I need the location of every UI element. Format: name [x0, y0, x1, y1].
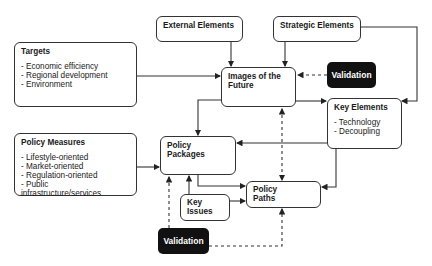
- list-item: - Decoupling: [334, 127, 395, 136]
- list-item: - Economic efficiency: [21, 62, 130, 71]
- list-item: - Public infrastructure/services: [21, 180, 130, 198]
- node-targets: Targets - Economic efficiency - Regional…: [14, 42, 137, 107]
- node-title: Validation: [163, 236, 203, 246]
- node-title: Strategic Elements: [280, 21, 354, 30]
- node-title: Images of the Future: [228, 72, 289, 90]
- node-images-of-the-future: Images of the Future: [221, 67, 296, 107]
- edge-packages-to-paths: [198, 175, 245, 186]
- node-title: Key Elements: [334, 103, 395, 112]
- node-title: Key Issues: [187, 198, 215, 216]
- edge-images-to-policy-packages: [198, 100, 221, 135]
- node-item-list: - Lifestyle-oriented - Market-oriented -…: [21, 153, 130, 198]
- node-title: Policy Measures: [21, 138, 130, 147]
- node-strategic-elements: Strategic Elements: [273, 16, 361, 42]
- node-policy-measures: Policy Measures - Lifestyle-oriented - M…: [14, 133, 137, 196]
- list-item: - Regional development: [21, 71, 130, 80]
- node-key-issues: Key Issues: [180, 194, 230, 221]
- list-item: - Market-oriented: [21, 162, 130, 171]
- node-external-elements: External Elements: [156, 16, 243, 42]
- node-title: Policy Packages: [167, 141, 207, 159]
- node-item-list: - Economic efficiency - Regional develop…: [21, 62, 130, 89]
- node-title: External Elements: [163, 21, 236, 30]
- node-validation-bottom: Validation: [158, 228, 209, 254]
- node-title: Validation: [331, 70, 371, 80]
- node-validation-top: Validation: [327, 62, 376, 88]
- node-item-list: - Technology - Decoupling: [334, 118, 395, 136]
- list-item: - Technology: [334, 118, 395, 127]
- node-policy-paths: Policy Paths: [246, 181, 321, 208]
- node-policy-packages: Policy Packages: [160, 136, 236, 175]
- edge-key-elements-to-policy-paths: [322, 149, 336, 187]
- list-item: - Regulation-oriented: [21, 171, 130, 180]
- list-item: - Lifestyle-oriented: [21, 153, 130, 162]
- node-title: Targets: [21, 47, 130, 56]
- node-key-elements: Key Elements - Technology - Decoupling: [327, 98, 402, 149]
- list-item: - Environment: [21, 80, 130, 89]
- node-title: Policy Paths: [253, 185, 283, 203]
